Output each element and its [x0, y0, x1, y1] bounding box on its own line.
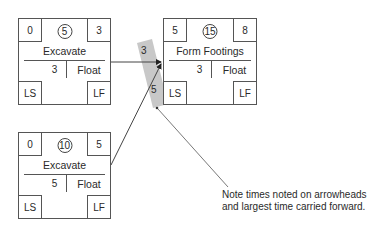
duration-circle: 15: [203, 24, 218, 39]
note-line-2: and largest time carried forward.: [222, 201, 367, 213]
annotation-note: Note times noted on arrowheads and large…: [222, 189, 367, 213]
float-label: Float: [68, 178, 110, 190]
divider: [66, 175, 67, 192]
arrow-label-bottom: 5: [151, 84, 157, 95]
float-value: 3: [43, 64, 66, 75]
activity-node-form-footings: 5 15 8 Form Footings 3 Float LS LF: [163, 18, 257, 105]
late-start: LS: [18, 81, 42, 105]
arrow-excavate-b-to-form-footings: [111, 64, 161, 165]
float-label: Float: [68, 64, 110, 76]
float-label: Float: [213, 64, 256, 76]
divider: [24, 60, 105, 61]
early-start: 0: [18, 132, 42, 156]
early-start: 5: [163, 18, 187, 42]
late-start: LS: [163, 81, 187, 105]
duration-circle: 10: [57, 138, 72, 153]
activity-node-excavate-a: 0 5 3 Excavate 3 Float LS LF: [18, 18, 111, 105]
early-start: 0: [18, 18, 42, 42]
note-line-1: Note times noted on arrowheads: [222, 189, 367, 201]
late-finish: LF: [87, 195, 111, 219]
late-finish: LF: [233, 81, 257, 105]
float-value: 5: [43, 178, 66, 189]
arrow-label-top: 3: [141, 45, 147, 56]
late-start: LS: [18, 195, 42, 219]
early-finish: 3: [87, 18, 111, 42]
activity-name: Excavate: [19, 159, 110, 171]
activity-name: Form Footings: [164, 45, 256, 57]
activity-node-excavate-b: 0 10 5 Excavate 5 Float LS LF: [18, 132, 111, 219]
note-leader-line: [158, 109, 228, 187]
activity-name: Excavate: [19, 45, 110, 57]
late-finish: LF: [87, 81, 111, 105]
divider: [66, 61, 67, 78]
divider: [24, 174, 105, 175]
duration-circle: 5: [57, 24, 72, 39]
early-finish: 8: [233, 18, 257, 42]
divider: [211, 61, 212, 78]
divider: [169, 60, 251, 61]
float-value: 3: [188, 64, 211, 75]
early-finish: 5: [87, 132, 111, 156]
